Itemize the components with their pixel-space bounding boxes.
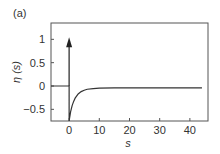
- plot-frame: [51, 23, 208, 121]
- series-group: [51, 86, 202, 121]
- y-axis-label: η (s): [10, 61, 22, 83]
- x-tick-label: 30: [154, 124, 166, 136]
- y-tick-label: −0.5: [23, 103, 45, 115]
- delta-arrow-head: [66, 37, 72, 47]
- y-tick-label: 0: [39, 80, 45, 92]
- x-tick-label: 10: [93, 124, 105, 136]
- chart: (a) 10.50−0.5 010203040 s η (s): [0, 0, 220, 154]
- panel-label: (a): [13, 7, 26, 19]
- x-tick-label: 0: [66, 124, 72, 136]
- series-line-eta: [51, 86, 202, 121]
- y-tick-label: 0.5: [30, 57, 45, 69]
- x-axis-label: s: [125, 137, 131, 149]
- x-tick-label: 20: [123, 124, 135, 136]
- y-tick-label: 1: [39, 33, 45, 45]
- annotations-group: [66, 37, 72, 86]
- x-tick-label: 40: [184, 124, 196, 136]
- y-axis-ticks: 10.50−0.5: [23, 33, 54, 115]
